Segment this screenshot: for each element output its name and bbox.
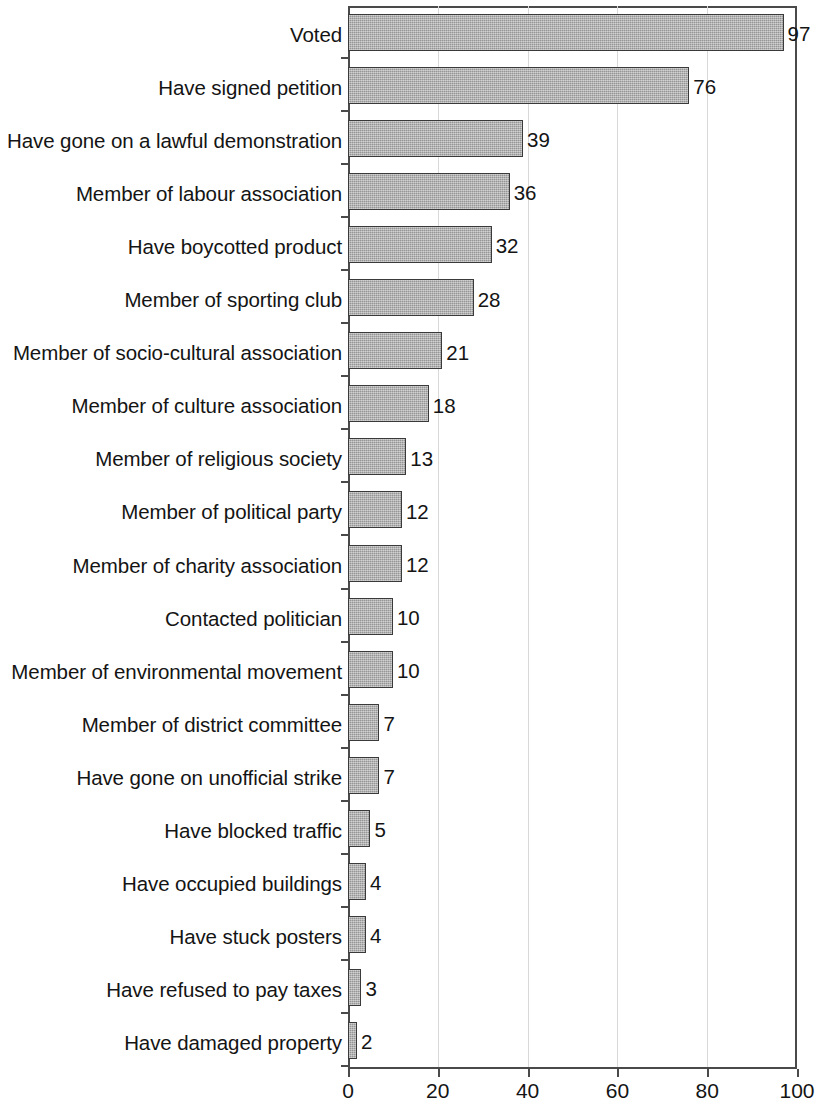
bar-value-label: 2	[361, 1032, 372, 1053]
x-tick-label: 40	[516, 1080, 539, 1101]
bar	[348, 438, 406, 475]
bar-value-label: 4	[370, 926, 381, 947]
x-tick-20	[438, 1069, 440, 1077]
bar-row: Have refused to pay taxes	[0, 961, 820, 1014]
bar-value-label: 21	[446, 343, 469, 364]
category-label: Have refused to pay taxes	[106, 980, 342, 1001]
bar-value-label: 39	[527, 130, 550, 151]
bar-value-label: 7	[383, 767, 394, 788]
bar-value-label: 10	[397, 661, 420, 682]
y-axis-tick	[341, 1065, 348, 1067]
bar-value-label: 12	[406, 502, 429, 523]
bar-value-label: 13	[410, 449, 433, 470]
category-label: Member of culture association	[71, 396, 342, 417]
bar	[348, 332, 442, 369]
bar	[348, 545, 402, 582]
bar	[348, 598, 393, 635]
bar-value-label: 36	[514, 183, 537, 204]
bar	[348, 385, 429, 422]
x-axis-line	[348, 1067, 797, 1069]
x-tick-0	[348, 1069, 350, 1077]
bar-value-label: 10	[397, 608, 420, 629]
bar	[348, 1022, 357, 1059]
bar-value-label: 97	[788, 24, 811, 45]
bar-row: Have blocked traffic	[0, 802, 820, 855]
bar-value-label: 28	[478, 290, 501, 311]
bar	[348, 916, 366, 953]
bar-value-label: 5	[374, 820, 385, 841]
bar	[348, 120, 523, 157]
category-label: Member of district committee	[82, 715, 342, 736]
category-label: Member of charity association	[73, 556, 342, 577]
bar	[348, 810, 370, 847]
category-label: Member of environmental movement	[11, 662, 342, 683]
bar	[348, 226, 492, 263]
bar	[348, 491, 402, 528]
bar-row: Member of district committee	[0, 696, 820, 749]
x-tick-label: 60	[606, 1080, 629, 1101]
bar-value-label: 12	[406, 555, 429, 576]
bar-row: Have damaged property	[0, 1014, 820, 1067]
bar	[348, 704, 379, 741]
x-tick-label: 80	[696, 1080, 719, 1101]
category-label: Have damaged property	[124, 1033, 342, 1054]
bar	[348, 863, 366, 900]
bar	[348, 279, 474, 316]
bar	[348, 67, 689, 104]
bar-row: Have occupied buildings	[0, 855, 820, 908]
category-label: Have boycotted product	[128, 237, 342, 258]
bar-value-label: 4	[370, 873, 381, 894]
x-tick-60	[617, 1069, 619, 1077]
category-label: Have gone on a lawful demonstration	[7, 131, 342, 152]
category-label: Member of political party	[121, 502, 342, 523]
category-label: Have blocked traffic	[164, 821, 342, 842]
category-label: Have signed petition	[158, 78, 342, 99]
category-label: Voted	[290, 25, 342, 46]
category-label: Have stuck posters	[169, 927, 342, 948]
bar	[348, 651, 393, 688]
bar-chart: Voted97Have signed petition76Have gone o…	[0, 0, 820, 1106]
x-tick-80	[707, 1069, 709, 1077]
bar	[348, 14, 784, 51]
bar-value-label: 3	[365, 979, 376, 1000]
bar-value-label: 76	[693, 77, 716, 98]
bar-rows: Voted97Have signed petition76Have gone o…	[0, 0, 820, 1063]
x-tick-100	[797, 1069, 799, 1077]
bar	[348, 173, 510, 210]
bar	[348, 969, 361, 1006]
bar-row: Have stuck posters	[0, 908, 820, 961]
category-label: Have gone on unofficial strike	[76, 768, 342, 789]
category-label: Member of religious society	[95, 449, 342, 470]
bar-value-label: 7	[383, 714, 394, 735]
x-tick-label: 0	[342, 1080, 354, 1101]
category-label: Member of labour association	[76, 184, 342, 205]
x-tick-label: 100	[779, 1080, 814, 1101]
x-tick-label: 20	[426, 1080, 449, 1101]
category-label: Member of socio-cultural association	[13, 343, 342, 364]
bar-row: Have gone on unofficial strike	[0, 749, 820, 802]
category-label: Contacted politician	[165, 609, 342, 630]
x-tick-40	[528, 1069, 530, 1077]
bar-value-label: 32	[496, 236, 519, 257]
category-label: Member of sporting club	[124, 290, 342, 311]
category-label: Have occupied buildings	[122, 874, 342, 895]
bar	[348, 757, 379, 794]
bar-value-label: 18	[433, 396, 456, 417]
